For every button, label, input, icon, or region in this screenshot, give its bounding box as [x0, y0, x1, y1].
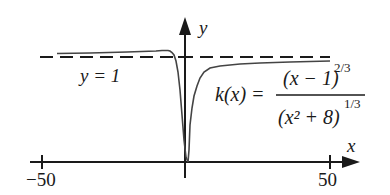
- x-axis-label: x: [346, 135, 356, 156]
- function-denominator-exponent: 1/3: [344, 96, 361, 111]
- x-axis-arrow-icon: [342, 156, 360, 168]
- asymptote-label: y = 1: [78, 65, 120, 86]
- function-numerator: (x − 1): [283, 67, 339, 90]
- chart-canvas: y x y = 1 −50 50 k(x) = (x − 1) 2/3 (x² …: [0, 0, 390, 195]
- y-axis-label: y: [197, 17, 208, 38]
- tick-label-50: 50: [318, 169, 337, 190]
- function-lhs: k(x) =: [215, 83, 265, 106]
- function-numerator-exponent: 2/3: [334, 60, 351, 75]
- function-denominator: (x² + 8): [278, 106, 340, 129]
- curve-left-branch: [57, 51, 188, 163]
- tick-label-neg50: −50: [26, 169, 56, 190]
- y-axis-arrow-icon: [179, 17, 191, 35]
